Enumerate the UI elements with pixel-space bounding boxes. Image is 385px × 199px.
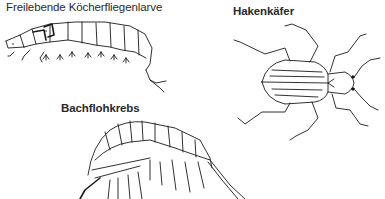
freshwater-shrimp-illustration [0,0,385,199]
